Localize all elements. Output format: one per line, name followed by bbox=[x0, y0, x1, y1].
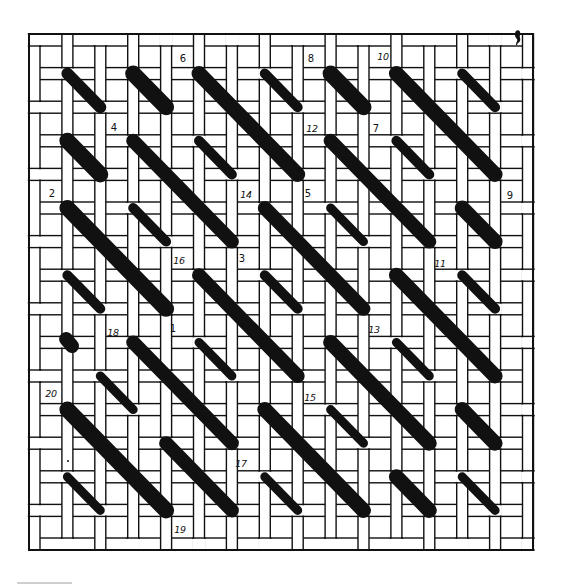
stitch-number-label: 7 bbox=[373, 123, 379, 134]
stitch-number-label: 10 bbox=[377, 51, 389, 62]
stitch-number-label: 18 bbox=[107, 327, 119, 338]
stitch-number-label: 17 bbox=[235, 458, 247, 469]
stitch-number-label: 4 bbox=[111, 122, 117, 133]
stitch-number-label: 2 bbox=[49, 188, 55, 199]
stitch bbox=[66, 339, 72, 346]
horizontal-over-crossing bbox=[291, 34, 304, 46]
stitch-number-label: 14 bbox=[240, 189, 252, 200]
stitch-number-label: 13 bbox=[368, 324, 380, 335]
horizontal-over-crossing bbox=[488, 34, 501, 46]
horizontal-over-crossing bbox=[423, 34, 436, 46]
stitch-number-label: 19 bbox=[174, 524, 186, 535]
stitch-number-label: 6 bbox=[180, 53, 186, 64]
stitch-number-label: 8 bbox=[308, 53, 314, 64]
stitch-diagram: 1234567891011121314151617181920 bbox=[0, 0, 563, 584]
stitch-number-label: 9 bbox=[507, 190, 513, 201]
horizontal-over-crossing bbox=[61, 538, 74, 550]
horizontal-over-crossing bbox=[94, 34, 107, 46]
stitch-number-label: 16 bbox=[173, 255, 185, 266]
horizontal-over-crossing bbox=[258, 538, 271, 550]
horizontal-over-crossing bbox=[357, 34, 370, 46]
horizontal-over-crossing bbox=[456, 538, 469, 550]
stitch-number-label: 11 bbox=[434, 258, 446, 269]
stitch-number-label: 12 bbox=[306, 123, 318, 134]
stitch-number-label: 20 bbox=[45, 388, 57, 399]
stitch-number-label: 15 bbox=[304, 392, 316, 403]
stitch-number-label: 3 bbox=[239, 253, 245, 264]
horizontal-over-crossing bbox=[159, 34, 172, 46]
horizontal-over-crossing bbox=[390, 538, 403, 550]
horizontal-over-crossing bbox=[127, 538, 140, 550]
stitch-number-label: 1 bbox=[170, 323, 176, 334]
horizontal-over-crossing bbox=[324, 538, 337, 550]
stitch-number-label: 5 bbox=[305, 188, 311, 199]
horizontal-over-crossing bbox=[192, 538, 205, 550]
horizontal-over-crossing bbox=[225, 34, 238, 46]
ink-dot-mark bbox=[67, 460, 69, 462]
